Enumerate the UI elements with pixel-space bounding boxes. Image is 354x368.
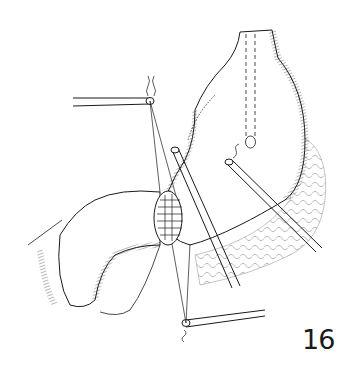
bowel-loop xyxy=(28,191,183,315)
figure-number: 16 xyxy=(302,324,334,355)
surgical-illustration xyxy=(0,0,354,368)
illustration-canvas: 16 xyxy=(0,0,354,368)
